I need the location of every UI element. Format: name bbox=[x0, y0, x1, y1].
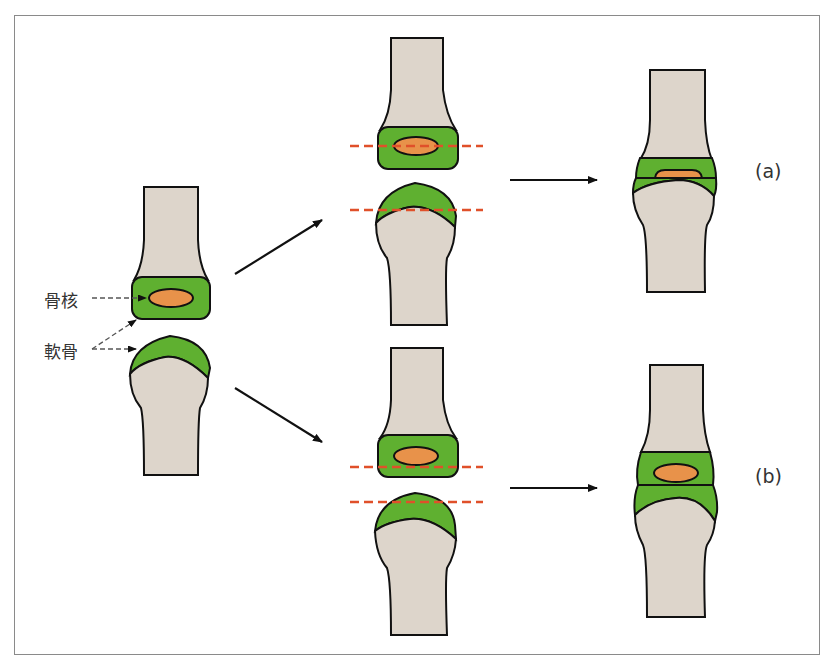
case-label-a: (a) bbox=[755, 160, 781, 182]
arrow-to-a-stage bbox=[235, 220, 322, 274]
ossification-nucleus bbox=[149, 289, 193, 307]
case-label-b: (b) bbox=[755, 465, 782, 487]
result-joint-a bbox=[633, 70, 716, 292]
joint-growth-diagram bbox=[0, 0, 832, 670]
lower-bone bbox=[130, 357, 208, 475]
middle-joint-b bbox=[350, 348, 483, 635]
label-cartilage: 軟骨 bbox=[44, 338, 78, 363]
result-joint-b bbox=[634, 365, 717, 617]
upper-bone bbox=[134, 187, 208, 280]
label-ossification-center: 骨核 bbox=[44, 287, 78, 312]
arrow-to-b-stage bbox=[235, 388, 322, 442]
middle-joint-a bbox=[350, 38, 483, 325]
initial-joint bbox=[130, 187, 210, 475]
